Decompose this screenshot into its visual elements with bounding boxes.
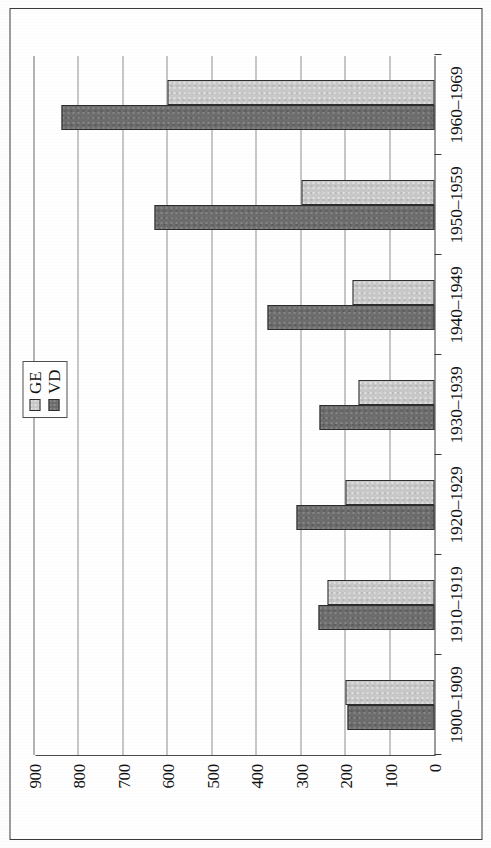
bar-ge bbox=[352, 280, 434, 305]
legend-item-ge: GE bbox=[26, 369, 43, 411]
value-axis-tick-300: 300 bbox=[292, 764, 312, 789]
category-label: 1910–1919 bbox=[445, 567, 466, 644]
bar-group bbox=[35, 655, 434, 755]
legend-label-ge: GE bbox=[26, 371, 43, 394]
legend-swatch-ge-icon bbox=[29, 399, 40, 411]
bar-ge bbox=[301, 180, 434, 205]
category-label: 1940–1949 bbox=[445, 267, 466, 344]
value-axis-tick-500: 500 bbox=[203, 764, 223, 789]
category-tick bbox=[434, 254, 441, 255]
value-axis-tick-0: 0 bbox=[425, 764, 445, 772]
value-axis-tick-200: 200 bbox=[336, 764, 356, 789]
legend-label-vd: VD bbox=[45, 369, 62, 394]
category-tick bbox=[434, 54, 441, 55]
bar-vd bbox=[61, 105, 434, 130]
scanned-figure-page: 0100200300400500600700800900 1900–190919… bbox=[0, 0, 491, 848]
bar-ge bbox=[345, 680, 434, 705]
bar-ge bbox=[327, 580, 434, 605]
bar-group bbox=[35, 455, 434, 555]
bar-group bbox=[35, 155, 434, 255]
value-axis-tick-100: 100 bbox=[381, 764, 401, 789]
bar-ge bbox=[167, 80, 434, 105]
value-axis-tick-400: 400 bbox=[247, 764, 267, 789]
bar-group bbox=[35, 255, 434, 355]
rotated-figure-wrapper: 0100200300400500600700800900 1900–190919… bbox=[0, 0, 491, 848]
value-axis-tick-800: 800 bbox=[69, 764, 89, 789]
category-label: 1920–1929 bbox=[445, 467, 466, 544]
bar-vd bbox=[154, 205, 434, 230]
category-tick bbox=[434, 454, 441, 455]
bar-ge bbox=[358, 380, 434, 405]
bar-ge bbox=[345, 480, 434, 505]
value-axis-tick-900: 900 bbox=[25, 764, 45, 789]
category-tick bbox=[434, 154, 441, 155]
category-tick bbox=[434, 554, 441, 555]
figure-outer-frame: 0100200300400500600700800900 1900–190919… bbox=[9, 8, 482, 840]
category-label: 1900–1909 bbox=[445, 667, 466, 744]
category-label: 1930–1939 bbox=[445, 367, 466, 444]
bar-vd bbox=[319, 405, 434, 430]
category-tick bbox=[434, 354, 441, 355]
bar-group bbox=[35, 55, 434, 155]
bar-group bbox=[35, 555, 434, 655]
bar-vd bbox=[347, 705, 434, 730]
chart-legend: GE VD bbox=[22, 361, 67, 418]
bar-vd bbox=[267, 305, 434, 330]
value-axis-tick-600: 600 bbox=[158, 764, 178, 789]
category-label: 1960–1969 bbox=[445, 67, 466, 144]
bar-group bbox=[35, 355, 434, 455]
category-tick bbox=[434, 654, 441, 655]
category-tick bbox=[434, 754, 441, 755]
legend-item-vd: VD bbox=[45, 369, 62, 411]
plot-area: 0100200300400500600700800900 1900–190919… bbox=[35, 56, 435, 756]
bar-vd bbox=[318, 605, 434, 630]
bar-vd bbox=[296, 505, 434, 530]
legend-swatch-vd-icon bbox=[48, 399, 59, 411]
value-axis-tick-700: 700 bbox=[114, 764, 134, 789]
category-label: 1950–1959 bbox=[445, 167, 466, 244]
